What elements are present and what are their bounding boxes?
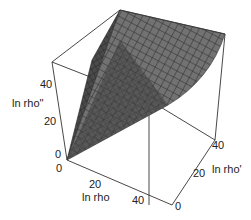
z-tick-0: 0 xyxy=(55,148,61,160)
z-axis-label: ln rho'' xyxy=(12,97,44,109)
y-axis-label: ln rho' xyxy=(212,163,242,175)
y-tick-0: 0 xyxy=(175,200,181,212)
x-tick-20: 20 xyxy=(89,178,101,190)
x-axis-label: ln rho xyxy=(82,191,110,203)
x-tick-40: 40 xyxy=(132,194,144,206)
y-tick-20: 20 xyxy=(193,167,205,179)
surface-plot: 40 20 0 ln rho'' 0 20 40 ln rho 0 20 40 … xyxy=(0,0,251,220)
y-tick-40: 40 xyxy=(212,139,224,151)
z-tick-20: 20 xyxy=(44,115,56,127)
x-tick-0: 0 xyxy=(56,162,62,174)
z-tick-40: 40 xyxy=(40,78,52,90)
